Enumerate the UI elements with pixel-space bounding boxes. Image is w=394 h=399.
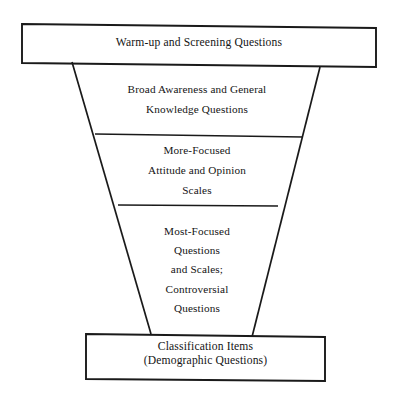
stage-most-line-4: Controversial xyxy=(108,284,286,295)
top-box-line-1: Warm-up and Screening Questions xyxy=(22,37,376,49)
funnel-divider-upper xyxy=(95,134,303,137)
bottom-box-label: Classification Items (Demographic Questi… xyxy=(86,341,325,366)
funnel-diagram: Warm-up and Screening Questions Broad Aw… xyxy=(0,0,394,399)
top-box-label: Warm-up and Screening Questions xyxy=(22,37,376,49)
stage-broad-awareness-label: Broad Awareness and General Knowledge Qu… xyxy=(77,84,317,115)
stage-most-line-2: Questions xyxy=(108,245,286,256)
stage-focused-line-1: More-Focused xyxy=(90,145,304,156)
stage-most-focused-label: Most-Focused Questions and Scales; Contr… xyxy=(108,226,286,314)
stage-focused-line-2: Attitude and Opinion xyxy=(90,165,304,176)
stage-most-line-5: Questions xyxy=(108,303,286,314)
stage-more-focused-label: More-Focused Attitude and Opinion Scales xyxy=(90,145,304,197)
stage-focused-line-3: Scales xyxy=(90,185,304,196)
stage-most-line-3: and Scales; xyxy=(108,264,286,275)
bottom-box-line-1: Classification Items xyxy=(86,341,325,353)
stage-most-line-1: Most-Focused xyxy=(108,226,286,237)
bottom-box-line-2: (Demographic Questions) xyxy=(86,355,325,367)
funnel-divider-lower xyxy=(118,205,278,206)
stage-broad-line-1: Broad Awareness and General xyxy=(77,84,317,95)
stage-broad-line-2: Knowledge Questions xyxy=(77,104,317,115)
